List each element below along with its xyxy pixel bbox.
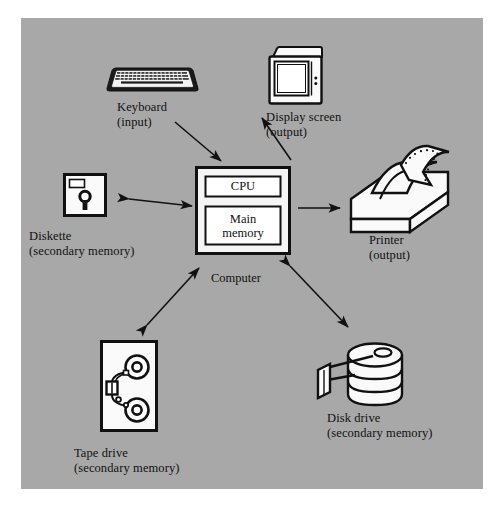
main-memory-label-line2: memory <box>222 226 264 240</box>
display-screen-label: Display screen (output) <box>266 110 341 139</box>
keyboard-label: Keyboard (input) <box>117 100 167 129</box>
display-screen-label-line2: (output) <box>266 125 341 140</box>
printer-label: Printer (output) <box>369 233 410 262</box>
disk-drive-label-line2: (secondary memory) <box>327 426 433 441</box>
display-screen-label-line1: Display screen <box>266 110 341 124</box>
main-memory-label-line1: Main <box>230 212 256 226</box>
diskette-label-line1: Diskette <box>29 229 71 243</box>
printer-label-line1: Printer <box>369 233 404 247</box>
diagram-figure: CPU Main memory Computer Keyboard (input… <box>0 0 500 506</box>
keyboard-label-line1: Keyboard <box>117 100 167 114</box>
tape-drive-label-line1: Tape drive <box>74 446 128 460</box>
cpu-box-label: CPU <box>196 179 290 193</box>
diskette-label: Diskette (secondary memory) <box>29 229 135 258</box>
tape-drive-label: Tape drive (secondary memory) <box>74 446 180 475</box>
main-memory-box-label: Main memory <box>196 212 290 240</box>
disk-drive-label-line1: Disk drive <box>327 411 380 425</box>
computer-caption: Computer <box>211 271 261 286</box>
printer-label-line2: (output) <box>369 248 410 263</box>
tape-drive-label-line2: (secondary memory) <box>74 461 180 476</box>
diskette-label-line2: (secondary memory) <box>29 244 135 259</box>
disk-drive-label: Disk drive (secondary memory) <box>327 411 433 440</box>
keyboard-label-line2: (input) <box>117 115 167 130</box>
